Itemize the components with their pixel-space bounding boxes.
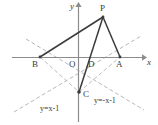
point-label-a: A: [116, 60, 123, 69]
point-marker-b: [39, 56, 42, 59]
equation-label-right: y=-x-1: [94, 97, 116, 105]
x-axis-label: x: [147, 58, 151, 67]
origin-label: O: [69, 60, 76, 69]
equation-label-left: y=x-1: [40, 105, 59, 113]
point-label-b: B: [32, 60, 38, 69]
y-axis-label: y: [70, 2, 74, 11]
figure-canvas: [0, 0, 158, 125]
point-marker-a: [119, 56, 122, 59]
point-marker-p: [102, 16, 105, 19]
point-label-d: D: [88, 60, 95, 69]
dashed-line-y-equals-minus-x-minus-1: [14, 36, 141, 112]
point-label-p: P: [100, 4, 105, 13]
geometry-figure: P B A C D O x y y=x-1 y=-x-1: [0, 0, 158, 125]
point-label-c: C: [83, 90, 89, 99]
point-marker-c: [77, 90, 81, 94]
y-axis-arrowhead: [75, 2, 81, 7]
segment-p-a: [103, 17, 120, 57]
segment-p-c: [79, 17, 103, 92]
segment-b-p: [40, 17, 103, 57]
